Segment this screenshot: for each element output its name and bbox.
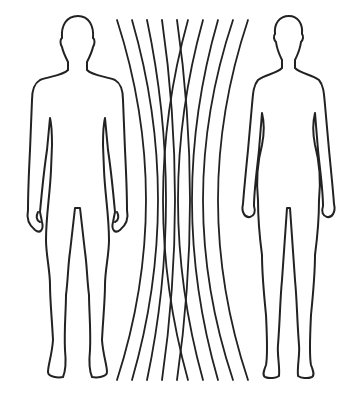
illustration [0, 0, 359, 401]
field-line [162, 20, 175, 380]
field-line [192, 20, 218, 380]
field-line [177, 20, 190, 380]
field-line [117, 20, 146, 380]
field-lines [117, 20, 248, 380]
female-figure-outline [242, 16, 334, 378]
field-line [132, 20, 158, 380]
male-figure-outline [27, 16, 127, 377]
figure-canvas: Outline illustration of a male and a fem… [0, 0, 359, 401]
